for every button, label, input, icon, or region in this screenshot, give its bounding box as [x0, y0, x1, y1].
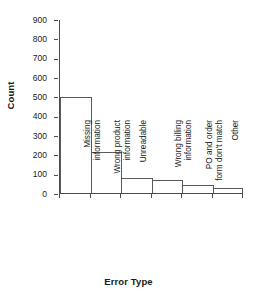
x-category-label-line: form don't match: [214, 120, 224, 200]
y-tick-mark: [54, 59, 58, 60]
x-category-label-line: Missing: [83, 120, 93, 200]
x-tick-mark: [90, 194, 91, 198]
x-category-label: Wrong productinformation: [113, 120, 141, 200]
y-tick-label: 500: [33, 93, 47, 102]
x-category-label: Missinginformation: [83, 120, 111, 200]
x-category-label: Unreadable: [139, 120, 167, 200]
x-category-label-line: PO and order: [205, 120, 215, 200]
y-tick-mark: [54, 20, 58, 21]
x-tick-mark: [120, 194, 121, 198]
x-category-label-line: information: [184, 120, 194, 200]
y-tick-label: 300: [33, 132, 47, 141]
y-tick-label: 700: [33, 54, 47, 63]
x-category-label-line: Wrong product: [113, 120, 123, 200]
y-tick-mark: [54, 97, 58, 98]
y-tick-label: 900: [33, 16, 47, 25]
y-tick-label: 800: [33, 35, 47, 44]
bar-chart: Count 0100200300400500600700800900 Missi…: [0, 0, 257, 306]
x-category-label: Wrong billinginformation: [174, 120, 202, 200]
x-tick-mark: [181, 194, 182, 198]
y-tick-mark: [54, 117, 58, 118]
y-axis-ticks: 0100200300400500600700800900: [0, 0, 58, 306]
x-category-label-line: Wrong billing: [174, 120, 184, 200]
y-tick-mark: [54, 78, 58, 79]
x-category-label: Other: [231, 120, 257, 200]
y-tick-mark: [54, 194, 58, 195]
y-tick-mark: [54, 39, 58, 40]
x-axis-title: Error Type: [0, 276, 257, 287]
x-category-label: PO and orderform don't match: [205, 120, 233, 200]
x-category-label-line: information: [123, 120, 133, 200]
y-tick-label: 0: [42, 190, 47, 199]
y-tick-label: 400: [33, 112, 47, 121]
y-tick-mark: [54, 155, 58, 156]
x-tick-mark: [59, 194, 60, 198]
x-category-label-line: Other: [231, 120, 241, 200]
y-tick-mark: [54, 136, 58, 137]
y-tick-mark: [54, 175, 58, 176]
x-tick-mark: [151, 194, 152, 198]
x-category-label-line: Unreadable: [139, 120, 149, 200]
x-tick-mark: [212, 194, 213, 198]
x-category-label-line: information: [92, 120, 102, 200]
x-tick-mark: [242, 194, 243, 198]
y-tick-label: 200: [33, 151, 47, 160]
y-tick-label: 600: [33, 74, 47, 83]
y-tick-label: 100: [33, 170, 47, 179]
